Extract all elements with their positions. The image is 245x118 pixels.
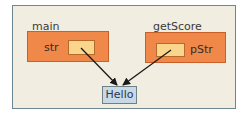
arrow-str-to-hello <box>81 48 117 85</box>
arrow-pstr-to-hello <box>123 50 171 85</box>
pointer-arrows <box>0 0 245 118</box>
